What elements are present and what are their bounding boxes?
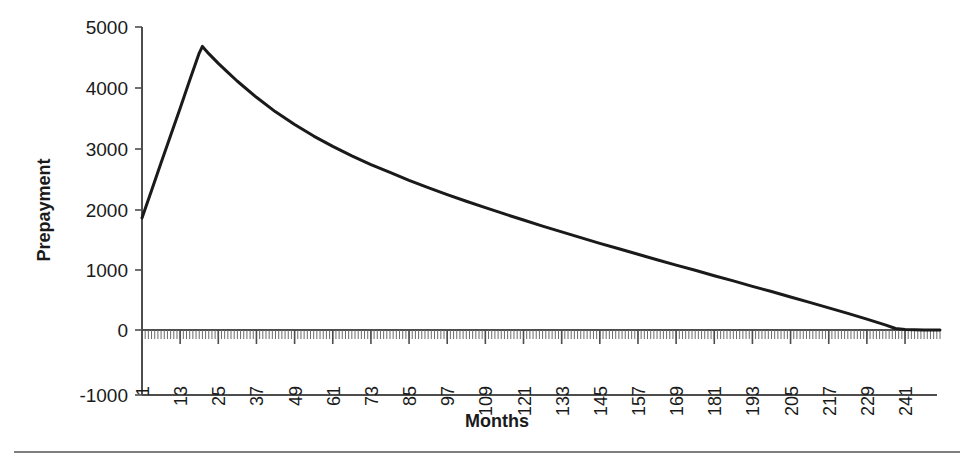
x-tick-label: 145 <box>591 386 611 416</box>
x-tick-label: 169 <box>667 386 687 416</box>
x-tick-label: 97 <box>438 386 458 406</box>
x-tick-label: 13 <box>171 386 191 406</box>
y-tick-label: 4000 <box>86 78 128 99</box>
y-tick-label: -1000 <box>79 385 128 406</box>
x-tick-label: 205 <box>782 386 802 416</box>
x-tick-label: 193 <box>743 386 763 416</box>
y-tick-label: 2000 <box>86 200 128 221</box>
y-tick-label: 0 <box>117 320 128 341</box>
x-tick-label: 217 <box>820 386 840 416</box>
y-tick-label: 5000 <box>86 17 128 38</box>
x-tick-label: 229 <box>858 386 878 416</box>
x-tick-label: 49 <box>286 386 306 406</box>
x-tick-label: 61 <box>324 386 344 406</box>
x-tick-label: 85 <box>400 386 420 406</box>
y-tick-label: 3000 <box>86 139 128 160</box>
prepayment-line-chart: 5000 4000 3000 2000 1000 0 -1000 1132537… <box>0 0 978 463</box>
x-tick-label: 133 <box>553 386 573 416</box>
x-tick-label: 241 <box>896 386 916 416</box>
x-axis-title: Months <box>465 411 529 431</box>
x-tick-label: 37 <box>247 386 267 406</box>
x-tick-label: 157 <box>629 386 649 416</box>
x-tick-label: 181 <box>705 386 725 416</box>
y-tick-label: 1000 <box>86 260 128 281</box>
x-tick-label: 1 <box>133 386 153 396</box>
x-tick-label: 73 <box>362 386 382 406</box>
x-tick-label: 25 <box>209 386 229 406</box>
y-axis-title: Prepayment <box>34 158 54 261</box>
chart-figure: 5000 4000 3000 2000 1000 0 -1000 1132537… <box>0 0 978 463</box>
